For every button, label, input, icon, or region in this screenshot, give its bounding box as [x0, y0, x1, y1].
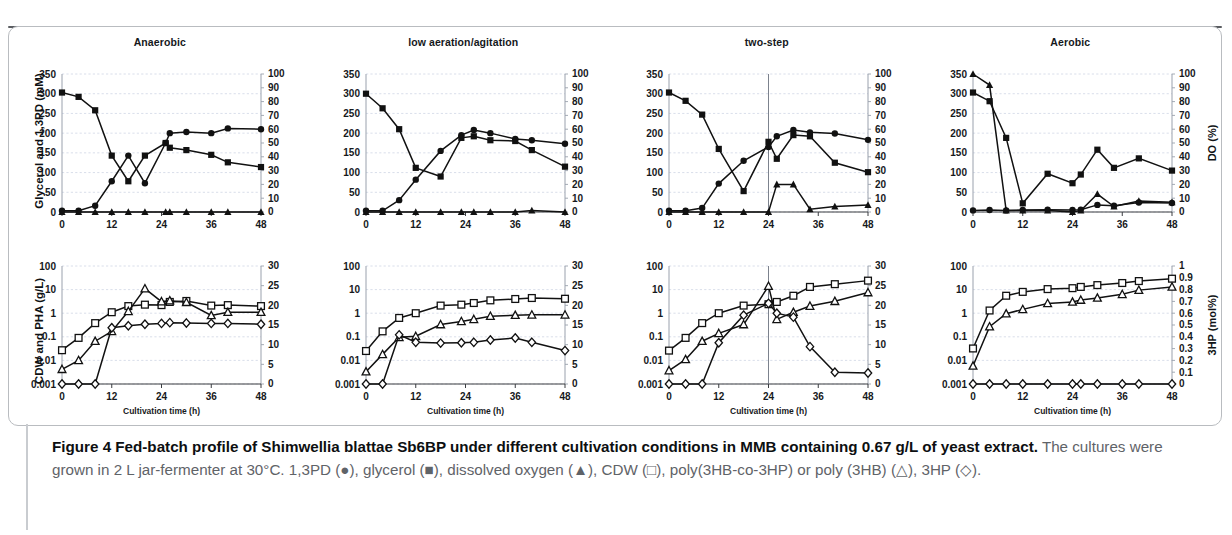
chart-two-step-bottom: 1001010.10.010.001302520151050012243648C… — [615, 252, 919, 430]
data-point-marker — [773, 299, 780, 306]
data-point-marker — [412, 165, 418, 171]
data-point-marker — [437, 173, 443, 179]
data-point-marker — [1135, 380, 1142, 388]
data-point-marker — [486, 297, 493, 304]
svg-text:48: 48 — [1166, 391, 1178, 402]
data-point-marker — [92, 202, 98, 208]
svg-text:150: 150 — [950, 147, 967, 158]
svg-text:30: 30 — [875, 165, 887, 176]
data-point-marker — [1002, 380, 1009, 388]
series-1-3pd — [362, 127, 567, 214]
data-point-marker — [698, 380, 705, 388]
data-point-marker — [864, 369, 871, 377]
data-point-marker — [436, 339, 443, 347]
data-point-marker — [208, 302, 215, 309]
data-point-marker — [437, 302, 444, 309]
data-point-marker — [765, 282, 773, 289]
chart-aerobic-top: 3503002502001501005001009080706050403020… — [919, 60, 1223, 250]
data-point-marker — [1077, 284, 1084, 291]
data-point-marker — [142, 180, 148, 186]
svg-text:80: 80 — [268, 96, 280, 107]
svg-text:12: 12 — [106, 219, 118, 230]
data-point-marker — [666, 347, 673, 354]
series-3hp — [969, 380, 1175, 388]
data-point-marker — [774, 133, 780, 139]
data-point-marker — [1168, 168, 1174, 174]
data-point-marker — [457, 339, 464, 347]
svg-text:0: 0 — [268, 378, 274, 389]
svg-text:15: 15 — [875, 319, 887, 330]
svg-text:Cultivation time (h): Cultivation time (h) — [1034, 406, 1111, 416]
svg-text:5: 5 — [572, 359, 578, 370]
data-point-marker — [790, 127, 796, 133]
svg-text:0.2: 0.2 — [1179, 355, 1193, 366]
svg-text:36: 36 — [206, 219, 218, 230]
svg-text:12: 12 — [410, 219, 422, 230]
series-poly(3hb) — [969, 283, 1176, 369]
svg-text:0: 0 — [1179, 206, 1185, 217]
data-point-marker — [58, 380, 65, 388]
data-point-marker — [511, 296, 518, 303]
svg-text:20: 20 — [875, 179, 887, 190]
svg-text:250: 250 — [646, 108, 663, 119]
data-point-marker — [1019, 380, 1026, 388]
data-point-marker — [832, 160, 838, 166]
data-point-marker — [109, 153, 115, 159]
data-point-marker — [1044, 171, 1050, 177]
svg-text:250: 250 — [343, 108, 360, 119]
data-point-marker — [470, 338, 477, 346]
data-point-marker — [741, 188, 747, 194]
data-point-marker — [699, 112, 705, 118]
data-point-marker — [1168, 380, 1175, 388]
svg-text:350: 350 — [343, 69, 360, 80]
svg-text:0.001: 0.001 — [638, 379, 663, 390]
data-point-marker — [1094, 202, 1100, 208]
data-point-marker — [790, 292, 797, 299]
data-point-marker — [969, 380, 976, 388]
data-point-marker — [141, 285, 149, 292]
data-point-marker — [699, 320, 706, 327]
svg-text:10: 10 — [348, 284, 360, 295]
data-point-marker — [470, 127, 476, 133]
svg-text:48: 48 — [255, 391, 267, 402]
svg-text:0: 0 — [268, 206, 274, 217]
svg-text:0: 0 — [572, 378, 578, 389]
data-point-marker — [1043, 380, 1050, 388]
series-glycerol — [362, 91, 567, 180]
svg-text:3HP (mol%): 3HP (mol%) — [1206, 294, 1218, 355]
svg-text:0: 0 — [961, 207, 967, 218]
chart-two-step-top: 3503002502001501005001009080706050403020… — [615, 60, 919, 250]
data-point-marker — [225, 125, 231, 131]
data-point-marker — [969, 345, 976, 352]
data-point-marker — [528, 338, 535, 346]
data-point-marker — [183, 319, 190, 327]
svg-text:300: 300 — [646, 88, 663, 99]
svg-text:Cultivation time (h): Cultivation time (h) — [123, 406, 200, 416]
data-point-marker — [1019, 200, 1025, 206]
svg-text:30: 30 — [268, 165, 280, 176]
svg-text:24: 24 — [156, 391, 168, 402]
data-point-marker — [395, 197, 401, 203]
svg-text:50: 50 — [45, 187, 57, 198]
svg-text:15: 15 — [268, 319, 280, 330]
svg-text:60: 60 — [875, 124, 887, 135]
data-point-marker — [969, 70, 976, 77]
data-point-marker — [142, 153, 148, 159]
data-point-marker — [108, 324, 115, 332]
svg-text:0.1: 0.1 — [953, 331, 967, 342]
data-point-marker — [457, 301, 464, 308]
svg-text:20: 20 — [268, 300, 280, 311]
svg-text:0: 0 — [875, 378, 881, 389]
svg-text:48: 48 — [255, 219, 267, 230]
svg-text:300: 300 — [343, 88, 360, 99]
data-point-marker — [208, 152, 214, 158]
data-point-marker — [865, 169, 871, 175]
data-point-marker — [765, 144, 771, 150]
data-point-marker — [362, 348, 369, 355]
svg-text:12: 12 — [713, 219, 725, 230]
data-point-marker — [142, 301, 149, 308]
svg-text:20: 20 — [268, 179, 280, 190]
y-axis-title-glycerol-1-3pd: Glycerol and 1,3PD (mM) — [33, 66, 45, 216]
svg-text:40: 40 — [875, 151, 887, 162]
data-point-marker — [224, 319, 231, 327]
